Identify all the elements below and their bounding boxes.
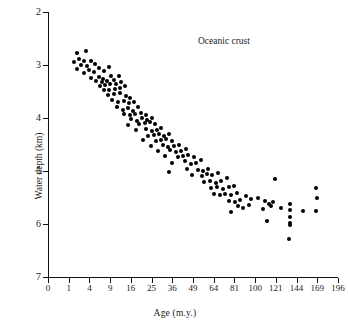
data-point — [126, 106, 130, 110]
data-point — [121, 108, 125, 112]
data-point — [128, 96, 132, 100]
data-point — [244, 194, 248, 198]
x-tick-label: 144 — [290, 284, 304, 293]
data-point — [190, 173, 194, 177]
data-point — [137, 122, 141, 126]
data-point — [208, 179, 212, 183]
x-tick-label: 25 — [147, 284, 156, 293]
data-point — [143, 121, 147, 125]
y-tick-label: 2 — [36, 7, 41, 17]
data-point — [177, 143, 181, 147]
data-point — [102, 69, 106, 73]
x-tick-label: 100 — [248, 284, 262, 293]
data-point — [117, 74, 121, 78]
data-point — [233, 200, 237, 204]
data-point — [249, 197, 253, 201]
data-point — [108, 82, 112, 86]
data-point — [115, 105, 119, 109]
data-point — [232, 184, 236, 188]
data-point — [192, 155, 196, 159]
y-tick — [43, 65, 48, 66]
data-point — [205, 172, 209, 176]
data-point — [136, 105, 140, 109]
data-point — [315, 196, 319, 200]
data-point — [156, 149, 160, 153]
y-tick — [43, 224, 48, 225]
data-point — [134, 128, 138, 132]
data-point — [225, 176, 229, 180]
data-point — [106, 93, 110, 97]
data-point — [287, 237, 291, 241]
plot-area: 234567 0149162536496481100121144169196 — [48, 12, 338, 277]
data-point — [110, 98, 114, 102]
data-point — [236, 204, 240, 208]
x-tick-label: 1 — [66, 284, 71, 293]
x-tick-label: 169 — [311, 284, 325, 293]
data-point — [206, 167, 210, 171]
x-tick-label: 49 — [189, 284, 198, 293]
data-point — [87, 68, 91, 72]
data-point — [97, 66, 101, 70]
data-point — [273, 177, 277, 181]
data-point — [133, 112, 137, 116]
data-point — [161, 143, 165, 147]
y-tick-label: 7 — [36, 272, 41, 282]
data-point — [75, 51, 79, 55]
data-point — [170, 161, 174, 165]
data-point — [118, 86, 122, 90]
y-axis-line — [48, 12, 49, 277]
x-tick-label: 196 — [331, 284, 345, 293]
chart-annotation: Oceanic crust — [198, 36, 250, 46]
x-tick-label: 36 — [168, 284, 177, 293]
data-point — [288, 223, 292, 227]
data-point — [241, 206, 245, 210]
chart-figure: Water depth (km) 234567 0149162536496481… — [0, 0, 350, 332]
data-point — [124, 94, 128, 98]
data-point — [221, 187, 225, 191]
data-point — [112, 92, 116, 96]
data-point — [144, 113, 148, 117]
data-point — [114, 82, 118, 86]
y-tick — [43, 12, 48, 13]
data-point — [202, 180, 206, 184]
data-point — [94, 79, 98, 83]
data-point — [256, 196, 260, 200]
data-point — [146, 134, 150, 138]
data-point — [129, 117, 133, 121]
data-point — [172, 144, 176, 148]
data-point — [229, 193, 233, 197]
data-point — [229, 210, 233, 214]
data-point — [167, 170, 171, 174]
data-point — [102, 88, 106, 92]
data-point — [288, 208, 292, 212]
data-point — [181, 154, 185, 158]
data-point — [218, 193, 222, 197]
data-point — [183, 159, 187, 163]
data-point — [199, 158, 203, 162]
data-point — [153, 122, 157, 126]
data-point — [132, 100, 136, 104]
data-point — [185, 167, 189, 171]
data-point — [159, 126, 163, 130]
data-point — [288, 215, 292, 219]
x-tick-label: 9 — [108, 284, 113, 293]
y-tick — [43, 118, 48, 119]
data-point — [103, 83, 107, 87]
data-point — [170, 139, 174, 143]
data-point — [157, 132, 161, 136]
data-point — [301, 209, 305, 213]
data-point — [109, 74, 113, 78]
y-tick-label: 6 — [36, 219, 41, 229]
data-point — [194, 161, 198, 165]
data-point — [82, 71, 86, 75]
data-point — [139, 111, 143, 115]
data-point — [261, 207, 265, 211]
data-point — [184, 147, 188, 151]
data-point — [107, 65, 111, 69]
y-tick-label: 3 — [36, 60, 41, 70]
data-point — [72, 60, 76, 64]
data-point — [314, 186, 318, 190]
data-point — [107, 88, 111, 92]
data-point — [265, 219, 269, 223]
x-tick-label: 64 — [209, 284, 218, 293]
